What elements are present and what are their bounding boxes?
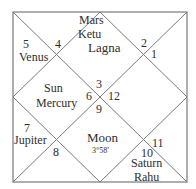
planet-ketu: Ketu bbox=[78, 28, 101, 40]
house-number-2: 2 bbox=[141, 37, 147, 49]
house-number-12: 12 bbox=[108, 90, 120, 102]
planet-sun: Sun bbox=[44, 82, 63, 94]
planet-moon: Moon bbox=[87, 132, 118, 144]
planet-saturn: Saturn bbox=[131, 157, 162, 169]
house-number-9: 9 bbox=[96, 103, 102, 115]
house-number-11: 11 bbox=[152, 137, 164, 149]
house-number-6: 6 bbox=[86, 90, 92, 102]
planet-venus: Venus bbox=[19, 51, 48, 63]
house-number-4: 4 bbox=[55, 38, 61, 50]
house-number-8: 8 bbox=[53, 146, 59, 158]
house-number-1: 1 bbox=[151, 48, 157, 60]
house-number-3: 3 bbox=[96, 78, 102, 90]
planet-mercury: Mercury bbox=[36, 97, 77, 109]
house-number-5: 5 bbox=[23, 38, 29, 50]
planet-mars: Mars bbox=[79, 14, 104, 26]
planet-rahu: Rahu bbox=[134, 171, 159, 183]
planet-jupiter: Jupiter bbox=[14, 134, 47, 146]
lagna-label: Lagna bbox=[88, 42, 120, 54]
birth-chart: Mars Ketu 4 5 Venus Lagna 2 1 Sun Mercur… bbox=[0, 0, 196, 189]
moon-degree: 3°58' bbox=[92, 147, 109, 155]
